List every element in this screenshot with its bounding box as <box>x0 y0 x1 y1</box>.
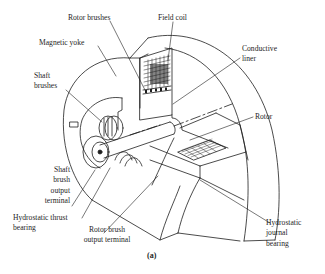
field-coil-shape <box>140 48 172 120</box>
label-hydrostatic-journal-bearing: Hydrostatic journal bearing <box>266 218 301 249</box>
journal-bearing-shape <box>178 139 226 160</box>
label-shaft-brush-output-terminal: Shaft brush output terminal <box>36 165 70 207</box>
label-rotor-brush-output-terminal: Rotor brush output terminal <box>74 225 140 246</box>
homopolar-machine-figure: Rotor brushes Field coil Magnetic yoke C… <box>0 0 325 274</box>
label-rotor-brushes: Rotor brushes <box>68 13 110 23</box>
figure-caption: (a) <box>147 251 156 260</box>
label-shaft-brushes: Shaft brushes <box>34 71 57 92</box>
label-conductive-liner: Conductive liner <box>242 44 277 65</box>
leader-lines <box>66 21 270 233</box>
magnetic-yoke-shape <box>63 35 279 241</box>
label-hydrostatic-thrust-bearing: Hydrostatic thrust bearing <box>13 213 68 234</box>
label-rotor: Rotor <box>255 112 272 122</box>
label-magnetic-yoke: Magnetic yoke <box>39 38 84 48</box>
label-field-coil: Field coil <box>158 13 187 23</box>
shaft-shape <box>100 104 232 158</box>
